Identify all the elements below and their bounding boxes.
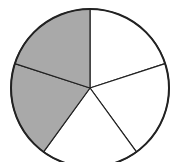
fraction-pie-diagram — [0, 0, 171, 162]
